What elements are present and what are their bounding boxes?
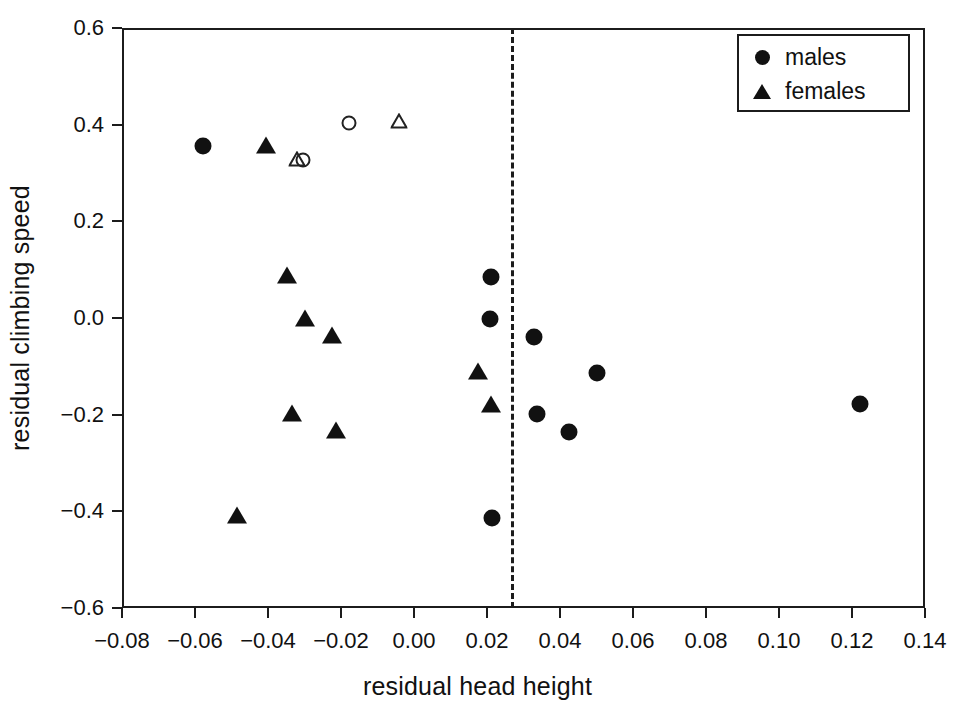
- x-tick-mark: [632, 608, 634, 618]
- x-tick-mark: [486, 608, 488, 618]
- x-tick-label: 0.08: [685, 628, 728, 654]
- data-point-triangle-filled: [322, 327, 342, 344]
- data-point-circle-filled: [560, 424, 577, 441]
- legend-label-females: females: [785, 78, 866, 105]
- x-tick-label: 0.06: [612, 628, 655, 654]
- x-tick-label: −0.04: [240, 628, 296, 654]
- y-tick-mark: [112, 220, 122, 222]
- legend-item-males: males: [739, 42, 912, 72]
- data-point-circle-filled: [481, 310, 498, 327]
- data-point-triangle-filled: [326, 421, 346, 438]
- data-point-circle-filled: [529, 406, 546, 423]
- data-point-triangle-filled: [282, 404, 302, 421]
- data-point-circle-filled: [852, 396, 869, 413]
- data-point-circle-filled: [483, 269, 500, 286]
- data-point-triangle-filled: [256, 136, 276, 153]
- x-tick-mark: [267, 608, 269, 618]
- y-tick-mark: [112, 317, 122, 319]
- x-tick-mark: [705, 608, 707, 618]
- x-tick-mark: [194, 608, 196, 618]
- x-tick-mark: [924, 608, 926, 618]
- threshold-dashed-line: [511, 28, 514, 608]
- x-tick-mark: [559, 608, 561, 618]
- y-tick-mark: [112, 510, 122, 512]
- data-point-circle-filled: [588, 365, 605, 382]
- x-tick-label: 0.12: [831, 628, 874, 654]
- x-tick-mark: [413, 608, 415, 618]
- data-point-triangle-open: [391, 113, 408, 129]
- x-tick-label: 0.14: [904, 628, 947, 654]
- x-tick-label: −0.08: [94, 628, 150, 654]
- x-axis-title: residual head height: [0, 672, 955, 701]
- x-tick-mark: [851, 608, 853, 618]
- y-axis-title: residual climbing speed: [6, 28, 42, 608]
- x-tick-mark: [340, 608, 342, 618]
- data-point-circle-open: [342, 115, 357, 130]
- scatter-plot-figure: −0.08−0.06−0.04−0.020.000.020.040.060.08…: [0, 0, 955, 728]
- y-tick-mark: [112, 27, 122, 29]
- data-point-triangle-filled: [468, 363, 488, 380]
- x-tick-label: 0.10: [758, 628, 801, 654]
- triangle-filled-icon: [739, 84, 785, 99]
- data-point-circle-filled: [526, 328, 543, 345]
- x-tick-mark: [778, 608, 780, 618]
- data-point-triangle-filled: [295, 310, 315, 327]
- data-point-triangle-open: [289, 151, 306, 167]
- data-point-triangle-filled: [481, 395, 501, 412]
- legend-item-females: females: [739, 76, 912, 106]
- x-tick-label: 0.04: [539, 628, 582, 654]
- y-tick-mark: [112, 607, 122, 609]
- legend-box: males females: [737, 34, 910, 112]
- x-tick-mark: [121, 608, 123, 618]
- x-tick-label: −0.02: [313, 628, 369, 654]
- data-point-triangle-filled: [227, 507, 247, 524]
- y-tick-mark: [112, 124, 122, 126]
- data-point-circle-filled: [483, 509, 500, 526]
- legend-label-males: males: [785, 44, 846, 71]
- circle-filled-icon: [739, 50, 785, 65]
- x-tick-label: 0.00: [393, 628, 436, 654]
- x-tick-label: 0.02: [466, 628, 509, 654]
- y-tick-mark: [112, 414, 122, 416]
- data-point-circle-filled: [195, 138, 212, 155]
- x-tick-label: −0.06: [167, 628, 223, 654]
- data-point-triangle-filled: [277, 267, 297, 284]
